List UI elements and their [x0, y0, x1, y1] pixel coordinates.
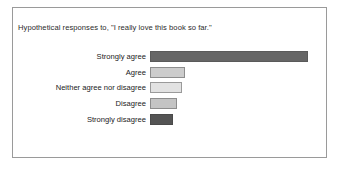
- bar-chart-plot-area: Strongly agree Agree Neither agree nor d…: [0, 50, 340, 132]
- bar-category-label: Neither agree nor disagree: [56, 82, 146, 93]
- bar-category-label: Strongly disagree: [87, 114, 146, 125]
- bar-row: Strongly disagree: [0, 113, 340, 129]
- chart-title: Hypothetical responses to, "I really lov…: [18, 23, 212, 33]
- bar-agree: [150, 67, 185, 78]
- bar-row: Neither agree nor disagree: [0, 81, 340, 97]
- bar-row: Agree: [0, 66, 340, 82]
- bar-neither-agree-nor-disagree: [150, 82, 182, 93]
- bar-category-label: Agree: [126, 67, 146, 78]
- bar-category-label: Disagree: [116, 98, 146, 109]
- bar-row: Disagree: [0, 97, 340, 113]
- bar-row: Strongly agree: [0, 50, 340, 66]
- bar-category-label: Strongly agree: [97, 51, 146, 62]
- bar-disagree: [150, 98, 177, 109]
- chart-screenshot: Hypothetical responses to, "I really lov…: [0, 0, 340, 174]
- bar-strongly-disagree: [150, 114, 173, 125]
- bar-strongly-agree: [150, 51, 308, 62]
